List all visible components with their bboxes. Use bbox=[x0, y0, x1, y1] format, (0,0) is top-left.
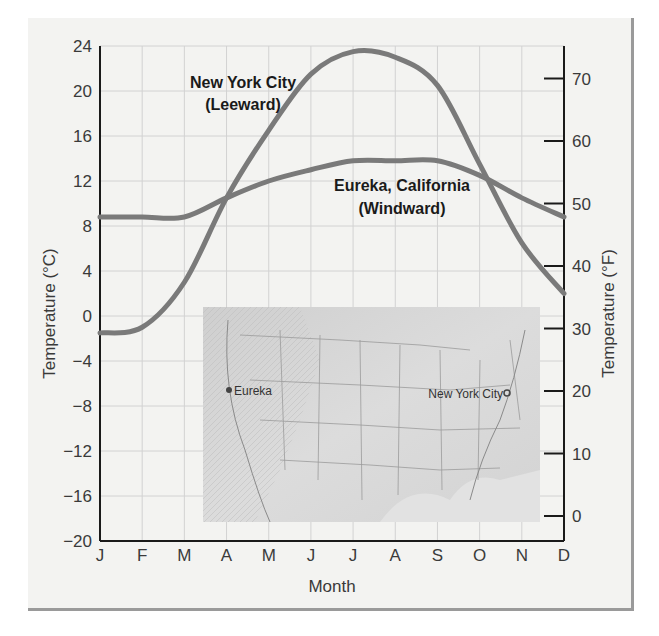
nyc-map-label: New York City bbox=[428, 387, 503, 401]
x-tick-label: A bbox=[221, 546, 233, 565]
y-tick-label: 0 bbox=[83, 307, 92, 326]
y-tick-label: −4 bbox=[73, 352, 92, 371]
x-tick-label: M bbox=[177, 546, 191, 565]
y-axis-title-right: Temperature (°F) bbox=[599, 249, 618, 378]
x-tick-label: J bbox=[307, 546, 316, 565]
y-tick-label-right: 50 bbox=[572, 195, 591, 214]
inset-map bbox=[203, 307, 540, 522]
x-tick-label: N bbox=[516, 546, 528, 565]
y-tick-label-right: 70 bbox=[572, 70, 591, 89]
y-tick-label: −16 bbox=[63, 487, 92, 506]
eureka-map-label: Eureka bbox=[234, 384, 272, 398]
eureka-label: Eureka, California bbox=[334, 177, 470, 194]
y-tick-label: 4 bbox=[83, 262, 92, 281]
y-tick-label-right: 60 bbox=[572, 132, 591, 151]
y-tick-label: −20 bbox=[63, 532, 92, 551]
y-tick-label-right: 20 bbox=[572, 382, 591, 401]
nyc-temperature-line bbox=[100, 51, 564, 333]
x-tick-label: D bbox=[558, 546, 570, 565]
y-tick-label: 12 bbox=[73, 172, 92, 191]
x-axis-title: Month bbox=[308, 577, 355, 596]
x-tick-label: A bbox=[390, 546, 402, 565]
temperature-chart: EurekaNew York City 24201612840−4−8−12−1… bbox=[0, 0, 659, 636]
x-tick-label: F bbox=[137, 546, 147, 565]
y-axis-title-left: Temperature (°C) bbox=[40, 248, 59, 379]
y-tick-label: −8 bbox=[73, 397, 92, 416]
eureka-label-sub: (Windward) bbox=[359, 200, 446, 217]
y-tick-label: −12 bbox=[63, 442, 92, 461]
y-tick-label: 8 bbox=[83, 217, 92, 236]
series-lines bbox=[100, 51, 564, 333]
x-tick-label: S bbox=[432, 546, 443, 565]
y-tick-label-right: 0 bbox=[572, 507, 581, 526]
x-tick-label: J bbox=[96, 546, 105, 565]
y-tick-label: 20 bbox=[73, 82, 92, 101]
x-tick-label: J bbox=[349, 546, 358, 565]
eureka-marker-icon bbox=[226, 387, 232, 393]
x-tick-label: M bbox=[262, 546, 276, 565]
y-tick-label-right: 30 bbox=[572, 320, 591, 339]
nyc-label: New York City bbox=[190, 74, 296, 91]
y-tick-label: 16 bbox=[73, 127, 92, 146]
y-tick-label-right: 40 bbox=[572, 257, 591, 276]
y-tick-label: 24 bbox=[73, 37, 92, 56]
y-tick-label-right: 10 bbox=[572, 445, 591, 464]
x-tick-label: O bbox=[473, 546, 486, 565]
nyc-label-sub: (Leeward) bbox=[205, 96, 281, 113]
